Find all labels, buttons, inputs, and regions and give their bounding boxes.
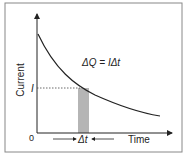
equation-label: ΔQ = IΔt — [81, 57, 121, 68]
interval-label: Δt — [77, 134, 89, 145]
shaded-area-charge — [78, 88, 89, 133]
x-axis-label: Time — [128, 134, 150, 145]
current-marker-label: I — [31, 83, 34, 94]
diagram-frame — [5, 3, 182, 152]
y-axis-label: Current — [15, 63, 26, 97]
origin-label: 0 — [29, 133, 34, 143]
current-time-diagram: Current Time 0 I ΔQ = IΔt Δt — [0, 0, 187, 160]
